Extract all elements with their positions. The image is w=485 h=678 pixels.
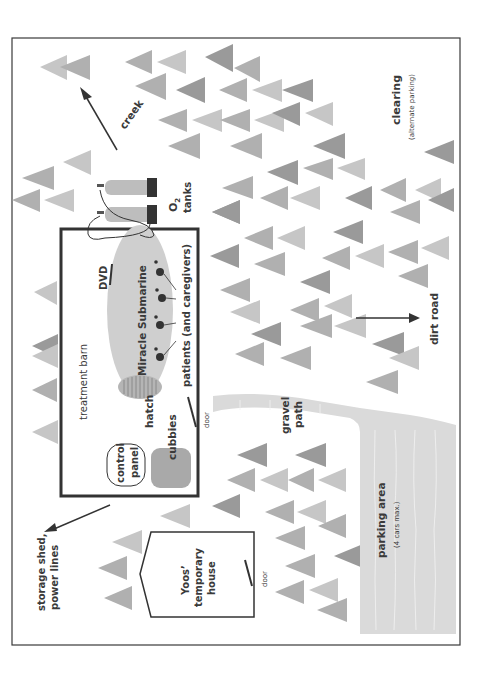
label-house-3: house [206, 561, 217, 595]
tree-icon [309, 578, 338, 602]
label-miracle-submarine: Miracle Submarine [136, 265, 148, 376]
creek-arrow [85, 95, 117, 150]
tree-icon [12, 189, 40, 212]
tree-icon [135, 73, 166, 100]
tree-icon [44, 189, 74, 212]
tree-icon [290, 298, 319, 322]
label-gravel-path-2: path [292, 401, 304, 428]
tree-icon [168, 133, 200, 159]
label-clearing-note: (alternate parking) [408, 74, 416, 140]
tree-icon [322, 246, 350, 270]
property-map: treatment barn DVD Miracle Submarine pat… [0, 0, 485, 678]
label-dirt-road: dirt road [428, 293, 440, 345]
tree-icon [280, 346, 311, 370]
tree-icon [333, 220, 363, 244]
tree-icon [237, 443, 267, 467]
label-control-panel-2: panel [129, 447, 140, 478]
tree-icon [158, 109, 187, 132]
tree-icon [125, 50, 152, 74]
tree-icon [227, 468, 255, 492]
label-gravel-path: gravel [279, 397, 291, 434]
tree-icon [160, 504, 190, 528]
tree-icon [219, 78, 247, 102]
tree-icon [424, 140, 454, 164]
creek-arrowhead-icon [80, 87, 92, 100]
tree-icon [275, 526, 305, 550]
tree-icon [282, 79, 313, 102]
label-house-2: temporary [193, 547, 204, 607]
tree-icon [355, 244, 384, 268]
label-hatch: hatch [143, 395, 155, 428]
tree-icon [220, 278, 250, 302]
tree-icon [295, 443, 326, 467]
tree-icon [22, 166, 54, 190]
tree-icon [421, 236, 449, 260]
tree-icon [212, 494, 240, 518]
tree-icon [222, 176, 253, 199]
label-cubbies: cubbies [166, 414, 178, 460]
tree-icon [32, 378, 57, 402]
tree-icon [390, 200, 420, 224]
label-parking-note: (4 cars max.) [393, 501, 401, 548]
tree-icon [290, 186, 320, 210]
tree-icon [366, 370, 398, 394]
tree-icon [372, 332, 404, 356]
label-tanks: tanks [182, 182, 193, 213]
tree-icon [98, 556, 127, 580]
tree-icon [277, 226, 305, 250]
tree-icon [305, 102, 333, 126]
tree-icon [32, 420, 58, 444]
tree-icon [157, 50, 186, 74]
label-storage-shed: storage shed, [36, 533, 47, 611]
tree-icon [275, 580, 304, 604]
tree-icon [324, 294, 352, 318]
tree-icon [260, 186, 288, 210]
tree-icon [317, 598, 347, 622]
tree-icon [210, 244, 239, 268]
tree-icon [220, 109, 250, 132]
tree-icon [176, 77, 205, 103]
tree-icon [337, 158, 365, 180]
label-house: Yoos’ [180, 565, 191, 596]
tree-icon [252, 79, 282, 102]
tree-icon [235, 342, 264, 366]
tree-icon [34, 281, 57, 305]
tree-icon [288, 468, 314, 492]
tree-icon [205, 44, 233, 72]
tree-icon [260, 468, 288, 492]
tree-icon [345, 186, 372, 210]
tree-icon [380, 178, 406, 202]
label-barn-door: door [203, 412, 211, 428]
label-house-door: door [261, 571, 269, 587]
tree-icon [251, 322, 281, 346]
tree-icon [244, 226, 273, 250]
tree-icon [63, 150, 91, 175]
storage-arrow [54, 505, 110, 529]
tree-icon [318, 468, 346, 492]
label-treatment-barn: treatment barn [78, 344, 89, 420]
tree-icon [104, 586, 132, 610]
tree-icon [300, 270, 330, 294]
label-clearing: clearing [390, 75, 403, 125]
tree-icon [267, 160, 298, 185]
tree-icon [265, 500, 294, 524]
dirt-road-arrowhead-icon [409, 313, 420, 323]
label-patients: patients (and caregivers) [181, 244, 192, 387]
tree-icon [297, 500, 326, 524]
label-o2: O2 [167, 198, 182, 212]
tree-icon [303, 158, 333, 180]
storage-arrowhead-icon [44, 523, 57, 532]
tree-icon [230, 300, 260, 324]
label-power-lines: power lines [49, 545, 60, 610]
tree-icon [230, 133, 262, 159]
tree-icon [192, 109, 222, 132]
label-parking-area: parking area [375, 483, 387, 558]
tree-icon [334, 544, 363, 568]
tree-icon [388, 240, 418, 264]
label-control-panel: control [115, 443, 126, 483]
tree-icon [112, 530, 142, 554]
tree-icon [212, 200, 240, 224]
tree-icon [398, 264, 428, 288]
hatch [118, 375, 162, 399]
label-dvd: DVD [98, 266, 109, 290]
